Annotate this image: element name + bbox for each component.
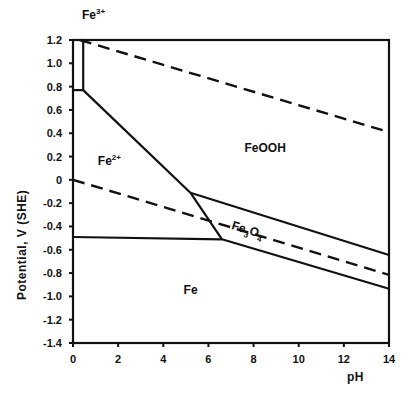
region-label: Fe <box>184 283 198 297</box>
x-tick-label: 8 <box>251 353 257 365</box>
x-tick-label: 4 <box>160 353 167 365</box>
x-tick-label: 2 <box>115 353 121 365</box>
x-tick-label: 10 <box>293 353 305 365</box>
y-tick-label: -1.0 <box>43 290 62 302</box>
region-label: Fe3+ <box>82 7 105 22</box>
y-tick-label: -1.4 <box>43 337 63 349</box>
region-label: Fe3O4 <box>229 218 265 244</box>
region-labels: Fe3+FeOOHFe2+Fe3O4Fe <box>82 7 286 297</box>
y-tick-label: -0.2 <box>43 197 62 209</box>
x-tick-label: 14 <box>383 353 396 365</box>
y-tick-label: 0.6 <box>47 104 62 116</box>
dashed-water-line <box>80 40 389 132</box>
boundary-lines <box>73 40 389 289</box>
y-tick-label: 0.2 <box>47 151 62 163</box>
y-tick-label: -1.2 <box>43 314 62 326</box>
pourbaix-diagram: 1.21.00.80.60.40.20-0.2-0.4-0.6-0.8-1.0-… <box>0 0 410 397</box>
y-tick-label: 1.2 <box>47 34 62 46</box>
y-tick-label: 0.8 <box>47 81 62 93</box>
y-tick-label: 0.4 <box>47 127 63 139</box>
region-label: FeOOH <box>245 141 286 155</box>
phase-boundary-line <box>83 90 190 193</box>
x-tick-label: 6 <box>205 353 211 365</box>
y-tick-label: 0 <box>56 174 62 186</box>
y-axis-label: Potential, V (SHE) <box>15 190 29 300</box>
y-tick-label: -0.4 <box>43 220 63 232</box>
axis-ticks: 1.21.00.80.60.40.20-0.2-0.4-0.6-0.8-1.0-… <box>43 34 396 365</box>
x-tick-label: 0 <box>70 353 76 365</box>
y-tick-label: -0.6 <box>43 244 62 256</box>
region-label: Fe2+ <box>98 153 121 168</box>
x-axis-label: pH <box>347 370 364 384</box>
x-tick-label: 12 <box>338 353 350 365</box>
phase-boundary-line <box>190 193 222 240</box>
y-tick-label: 1.0 <box>47 57 62 69</box>
phase-boundary-line <box>73 237 222 239</box>
y-tick-label: -0.8 <box>43 267 62 279</box>
